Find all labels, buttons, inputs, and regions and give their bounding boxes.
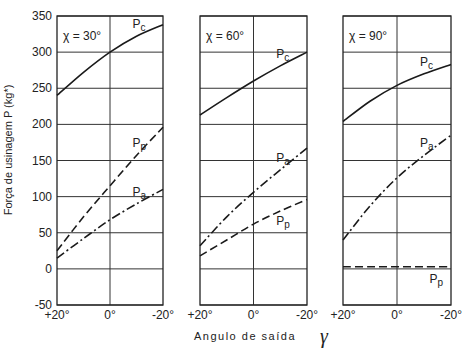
y-axis-label: Força de usinagem P (kg*) <box>2 85 14 216</box>
x-tick-label: 0° <box>248 308 260 322</box>
x-axis-label: Angulo de saída <box>194 330 296 342</box>
x-tick-label: +20° <box>44 308 69 322</box>
x-axis-symbol: γ <box>320 325 329 348</box>
y-tick-label: 150 <box>32 154 52 168</box>
series-label-subscript: a <box>284 156 290 167</box>
y-tick-label: 250 <box>32 81 52 95</box>
series-label: Pa <box>276 151 290 167</box>
panel-title: χ = 30° <box>63 29 101 43</box>
panel-1: +20°0°-20°χ = 30°PcPpPa <box>44 16 174 322</box>
series-label-subscript: a <box>141 190 147 201</box>
series-label-subscript: c <box>284 52 289 63</box>
x-tick-label: -20° <box>152 308 174 322</box>
x-tick-label: 0° <box>104 308 116 322</box>
series-label-subscript: c <box>428 60 433 71</box>
series-label: Pc <box>133 17 146 33</box>
y-tick-label: 200 <box>32 117 52 131</box>
series-label-subscript: a <box>428 141 434 152</box>
x-tick-label: +20° <box>187 308 212 322</box>
y-tick-label: 350 <box>32 9 52 23</box>
y-tick-label: 0 <box>45 262 52 276</box>
series-label: Pp <box>133 136 147 152</box>
series-label-subscript: p <box>141 141 147 152</box>
series-label: Pc <box>420 55 433 71</box>
panel-3: +20°0°-20°χ = 90°PcPaPp <box>330 16 462 322</box>
panel-2: +20°0°-20°χ = 60°PcPaPp <box>187 16 318 322</box>
series-label: Pc <box>276 47 289 63</box>
chart: Força de usinagem P (kg*) Angulo de saíd… <box>0 0 465 362</box>
x-tick-label: 0° <box>391 308 403 322</box>
x-tick-label: +20° <box>330 308 355 322</box>
y-tick-label: 300 <box>32 45 52 59</box>
series-label-subscript: p <box>284 219 290 230</box>
y-tick-label: 50 <box>39 226 53 240</box>
series-label-subscript: p <box>437 277 443 288</box>
series-label: Pp <box>276 214 290 230</box>
panel-title: χ = 90° <box>349 29 387 43</box>
panel-title: χ = 60° <box>206 29 244 43</box>
x-tick-label: -20° <box>440 308 462 322</box>
series-label: Pp <box>429 272 443 288</box>
series-label-subscript: c <box>141 22 146 33</box>
series-label: Pa <box>420 136 434 152</box>
x-tick-label: -20° <box>296 308 318 322</box>
y-tick-label: 100 <box>32 190 52 204</box>
series-label: Pa <box>133 185 147 201</box>
